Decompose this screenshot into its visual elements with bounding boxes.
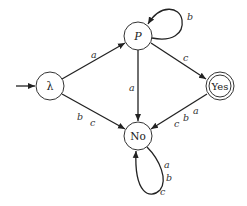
edge-P-P [148, 9, 182, 39]
edge-label: b [77, 111, 83, 122]
edge-label: c [160, 186, 166, 197]
state-P: P [124, 22, 152, 50]
edge-label: c [90, 117, 96, 128]
edge-label: a [164, 159, 170, 170]
state-Yes: Yes [206, 72, 234, 100]
state-diagram: λ P Yes No a b c b a c c b a a b c [0, 0, 247, 206]
edge-P-Yes [151, 43, 206, 79]
edge-label: c [174, 118, 180, 129]
state-label: Yes [211, 81, 229, 92]
state-label: No [130, 130, 146, 142]
state-lambda: λ [36, 72, 64, 100]
state-No: No [124, 122, 152, 150]
edge-label: a [129, 82, 135, 93]
edge-label: b [166, 172, 172, 183]
edge-label: a [193, 105, 199, 116]
edge-label: c [183, 52, 189, 63]
state-label: P [133, 30, 142, 43]
edge-label: b [187, 11, 193, 22]
edge-label: a [91, 49, 97, 60]
edge-label: b [183, 112, 189, 123]
state-label: λ [47, 80, 54, 93]
